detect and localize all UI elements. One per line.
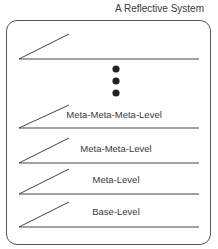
level-plane-top [19, 34, 199, 59]
level-label-base: Base-Level [92, 206, 140, 217]
level-label-meta: Meta-Level [93, 174, 140, 185]
ellipsis-dots-icon [112, 65, 119, 96]
level-label-meta-meta: Meta-Meta-Level [80, 143, 151, 154]
level-label-meta-meta-meta: Meta-Meta-Meta-Level [66, 109, 162, 120]
